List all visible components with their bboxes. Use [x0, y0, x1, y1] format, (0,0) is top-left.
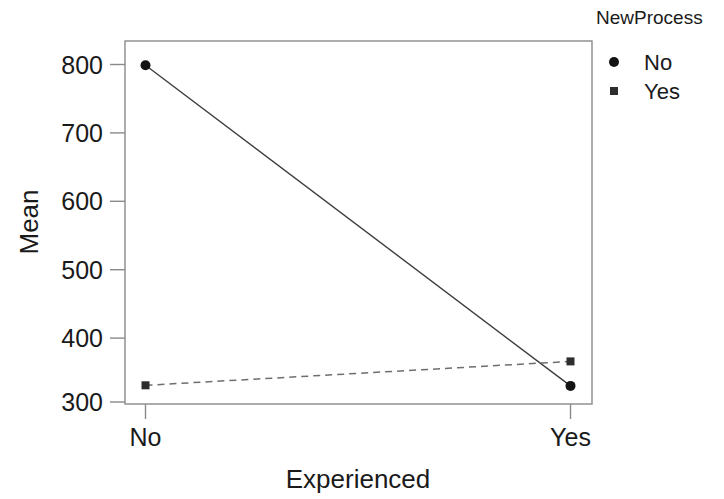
interaction-plot: 800 700 600 500 400 300 No Yes Mean Expe… — [0, 0, 724, 499]
x-axis-tick-labels: No Yes — [130, 423, 591, 451]
y-tick-label-600: 600 — [61, 187, 103, 215]
legend-item-no[interactable]: No — [609, 50, 672, 75]
plot-canvas: 800 700 600 500 400 300 No Yes Mean Expe… — [0, 0, 724, 499]
x-tick-label-yes: Yes — [550, 423, 591, 451]
x-axis-ticks — [146, 404, 571, 419]
y-tick-label-500: 500 — [61, 256, 103, 284]
data-point-yes-marker — [567, 357, 575, 365]
y-axis-title: Mean — [14, 189, 44, 254]
y-axis-ticks — [110, 65, 125, 403]
data-point-yes-marker — [142, 381, 150, 389]
legend-item-yes[interactable]: Yes — [610, 79, 680, 104]
y-axis-tick-labels: 800 700 600 500 400 300 — [61, 51, 103, 417]
legend-item-label: No — [644, 50, 672, 75]
x-tick-label-no: No — [130, 423, 162, 451]
data-point-no-marker — [566, 381, 576, 391]
x-axis-title: Experienced — [286, 464, 431, 494]
legend: NewProcess No Yes — [596, 7, 703, 104]
y-tick-label-800: 800 — [61, 51, 103, 79]
legend-title: NewProcess — [596, 7, 703, 28]
circle-marker-icon — [609, 57, 619, 67]
y-tick-label-700: 700 — [61, 119, 103, 147]
data-point-no-marker — [141, 60, 151, 70]
y-tick-label-300: 300 — [61, 388, 103, 416]
y-tick-label-400: 400 — [61, 324, 103, 352]
legend-item-label: Yes — [644, 79, 680, 104]
square-marker-icon — [610, 87, 618, 95]
